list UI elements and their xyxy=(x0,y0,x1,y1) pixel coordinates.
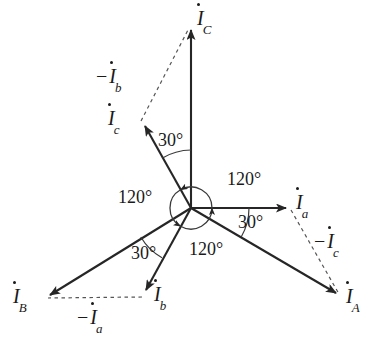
phasor-label-Ia: Ia xyxy=(296,192,309,216)
phasor-label-IC: IC xyxy=(197,8,212,32)
phasor-label-IA: IA xyxy=(346,286,361,310)
dashed-segment-minus-Ib xyxy=(141,28,189,121)
phasor-label-Ic-sub: c xyxy=(114,122,120,137)
angle-label-30-lower-left: 30° xyxy=(131,244,156,262)
minus-sign-Ic: − xyxy=(314,230,325,252)
phasor-label-Ic: Ic xyxy=(108,108,120,132)
angle-label-120-bottom: 120° xyxy=(189,240,223,258)
angle-label-120-left: 120° xyxy=(118,188,152,206)
phasor-diagram-figure: IC Ia Ic Ib IA IB −Ib −Ic −Ia 120° 120° … xyxy=(0,0,378,343)
dashed-label-minus-Ic: −Ic xyxy=(314,231,340,255)
phasor-label-Ib: Ib xyxy=(154,284,167,308)
angle-label-30-right: 30° xyxy=(238,213,263,231)
dashed-label-minus-Ia-sub: a xyxy=(96,321,103,336)
phasor-vector-IB xyxy=(50,208,191,295)
phasor-label-IC-sub: C xyxy=(203,22,212,37)
phasor-label-IB: IB xyxy=(13,286,28,310)
dashed-segment-minus-Ia xyxy=(48,297,142,298)
phasor-label-IA-sub: A xyxy=(352,300,360,315)
angle-arc-30-upper xyxy=(162,150,191,158)
dashed-label-minus-Ib: −Ib xyxy=(96,66,122,90)
angle-label-30-upper: 30° xyxy=(158,131,183,149)
dashed-label-minus-Ib-sub: b xyxy=(115,80,122,95)
angle-label-120-upper-right: 120° xyxy=(227,170,261,188)
phasor-label-Ia-sub: a xyxy=(302,206,309,221)
phasor-label-Ib-sub: b xyxy=(160,298,167,313)
phasor-diagram-canvas xyxy=(0,0,378,343)
minus-sign-Ia: − xyxy=(77,306,88,328)
dashed-label-minus-Ia: −Ia xyxy=(77,307,103,331)
dashed-label-minus-Ic-sub: c xyxy=(333,245,339,260)
phasor-label-IB-sub: B xyxy=(19,300,27,315)
minus-sign-Ib: − xyxy=(96,65,107,87)
